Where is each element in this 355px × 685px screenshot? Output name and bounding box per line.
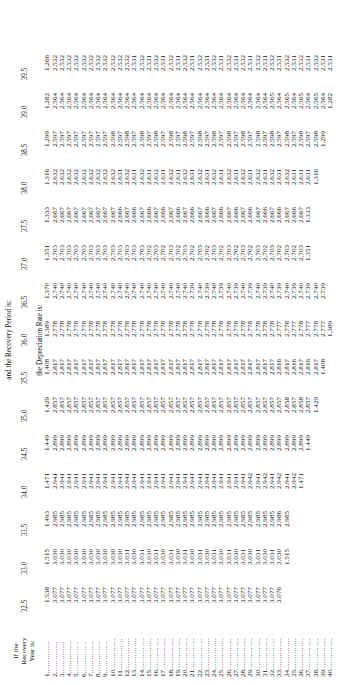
rate-cell (291, 511, 298, 549)
column-header: 39.5 (13, 55, 37, 93)
rate-cell (327, 473, 334, 511)
rate-cell (291, 587, 298, 625)
column-header: 36.5 (13, 283, 37, 321)
depreciation-rate-table: and the Recovery Period is: If the Recov… (6, 55, 334, 677)
rate-cell: 1.299 (320, 131, 327, 169)
column-header: 37.5 (13, 207, 37, 245)
rate-cell (320, 587, 327, 625)
rate-cell (305, 549, 312, 587)
rate-cell: 1.408 (320, 359, 327, 397)
corner-header: If the Recovery Year is: (13, 625, 37, 677)
rate-cell (312, 473, 319, 511)
rate-cell: 1.316 (312, 169, 319, 207)
rate-cell (312, 587, 319, 625)
scanned-page-wrapper: and the Recovery Period is: If the Recov… (0, 0, 355, 685)
rate-cell (327, 283, 334, 321)
table-row: 39..............1.4082.7772.7391.2992.56… (320, 55, 327, 677)
recovery-period-span-header: and the Recovery Period is: (6, 55, 13, 625)
rate-cell (312, 435, 319, 473)
rate-cell (312, 549, 319, 587)
column-header: 38.5 (13, 131, 37, 169)
rate-cell (320, 397, 327, 435)
rate-cell (327, 207, 334, 245)
rotated-page: and the Recovery Period is: If the Recov… (0, 0, 355, 685)
rate-cell: 1.282 (327, 93, 334, 131)
rate-cell (312, 207, 319, 245)
rate-cell: 1.429 (312, 397, 319, 435)
table-row: 40..............1.3891.2822.531 (327, 55, 334, 677)
rate-cell (298, 549, 305, 587)
rate-cell (327, 587, 334, 625)
rate-cell (327, 397, 334, 435)
rate-cell: 2.985 (283, 511, 290, 549)
rate-cell: 1.471 (298, 473, 305, 511)
rate-cell (327, 359, 334, 397)
column-header: 39.0 (13, 93, 37, 131)
rate-cell: 1.515 (283, 549, 290, 587)
rate-cell: 1.449 (305, 435, 312, 473)
rate-cell (320, 511, 327, 549)
column-header: 35.5 (13, 359, 37, 397)
rate-cell (327, 169, 334, 207)
rate-cell (305, 511, 312, 549)
rate-cell: 2.739 (320, 283, 327, 321)
rate-cell: 3.076 (276, 587, 283, 625)
rate-cell (305, 587, 312, 625)
rate-cell (320, 435, 327, 473)
rate-cell (327, 245, 334, 283)
recovery-year-number: 40 (326, 670, 334, 677)
rate-cell: 1.333 (305, 207, 312, 245)
depreciation-rate-table-sheet: and the Recovery Period is: If the Recov… (0, 0, 355, 685)
table-body: 1..............1.5381.5151.4931.4711.449… (44, 55, 334, 677)
column-header-row: If the Recovery Year is: 32.5 33.0 33.5 … (13, 55, 37, 677)
column-header: 36.0 (13, 321, 37, 359)
rate-cell (320, 207, 327, 245)
rate-cell (312, 245, 319, 283)
rate-cell (320, 473, 327, 511)
column-header: 32.5 (13, 587, 37, 625)
rate-cell (320, 549, 327, 587)
rate-cell: 1.351 (305, 245, 312, 283)
rate-cell (320, 169, 327, 207)
column-header: 38.0 (13, 169, 37, 207)
table-head: and the Recovery Period is: If the Recov… (6, 55, 44, 677)
column-header: 34.5 (13, 435, 37, 473)
column-header: 33.0 (13, 549, 37, 587)
rate-cell (298, 587, 305, 625)
rate-cell (320, 245, 327, 283)
column-header: 34.0 (13, 473, 37, 511)
rate-cell (312, 511, 319, 549)
rate-cell (283, 587, 290, 625)
recovery-year-label: 40.............. (327, 625, 334, 677)
rate-cell (327, 435, 334, 473)
rate-cell (327, 511, 334, 549)
column-header: 35.0 (13, 397, 37, 435)
rate-cell (327, 131, 334, 169)
rate-cell: 1.389 (327, 321, 334, 359)
leader-dots: .............. (326, 638, 334, 671)
rate-cell (298, 511, 305, 549)
rate-cell (327, 549, 334, 587)
column-header: 37.0 (13, 245, 37, 283)
rate-cell (305, 473, 312, 511)
column-header: 33.5 (13, 511, 37, 549)
corner-header-line-3: Year is: (29, 625, 37, 677)
rate-cell: 2.531 (327, 55, 334, 93)
span-header-row: and the Recovery Period is: (6, 55, 13, 677)
rate-cell (291, 549, 298, 587)
